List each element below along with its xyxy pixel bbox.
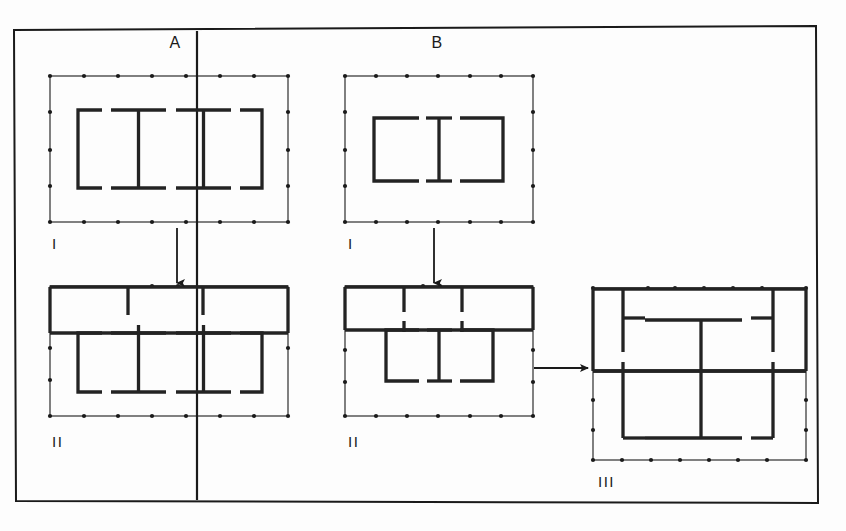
paper-background — [0, 0, 846, 531]
column-label-b: B — [431, 34, 442, 51]
phase-label-a2: II — [52, 433, 63, 450]
column-label-a: A — [169, 34, 180, 51]
phase-label-a1: I — [52, 235, 58, 252]
phase-label-b3: III — [598, 473, 615, 490]
phase-label-b1: I — [348, 235, 354, 252]
architectural-phase-diagram: A B — [0, 0, 846, 531]
phase-label-b2: II — [348, 433, 359, 450]
figure-page: A B — [0, 0, 846, 531]
